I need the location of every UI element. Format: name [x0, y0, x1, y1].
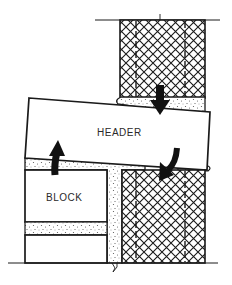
concrete-block: BLOCK — [25, 170, 107, 222]
lower-brick-wall — [122, 170, 205, 263]
bottom-break-mark — [112, 263, 117, 272]
block-mortar-joint — [25, 222, 107, 235]
block-label: BLOCK — [46, 192, 82, 203]
header-label: HEADER — [97, 127, 142, 138]
lower-block — [25, 235, 107, 263]
header-rotation-diagram: HEADER BLOCK — [0, 0, 232, 285]
